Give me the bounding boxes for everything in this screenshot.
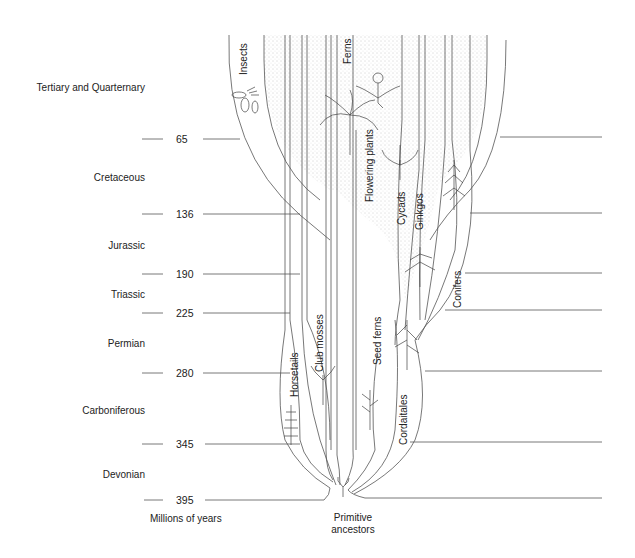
lineage-label-insects: Insects: [238, 43, 249, 75]
lineage-label-conifers: Conifers: [452, 271, 463, 308]
period-label: Triassic: [0, 289, 145, 300]
period-label: Jurassic: [0, 240, 145, 251]
lineage-label-club-mosses: Club mosses: [314, 314, 325, 372]
period-label: Tertiary and Quarternary: [0, 82, 145, 93]
age-label: 190: [176, 268, 206, 280]
root-label: Primitive ancestors: [313, 512, 393, 536]
seed-fern-icon: [395, 320, 419, 370]
period-label: Cretaceous: [0, 172, 145, 183]
age-label: 225: [176, 307, 206, 319]
lineage-label-flowering-plants: Flowering plants: [364, 129, 375, 202]
age-label: 65: [176, 133, 206, 145]
lineage-label-cordaitales: Cordaitales: [398, 394, 409, 445]
axis-title: Millions of years: [150, 513, 222, 524]
period-label: Carboniferous: [0, 405, 145, 416]
lineage-label-ginkgos: Ginkgos: [414, 193, 425, 230]
lineage-label-cycads: Cycads: [396, 192, 407, 225]
age-label: 280: [176, 367, 206, 379]
period-label: Devonian: [0, 469, 145, 480]
seed-fern-frond-icon: [362, 390, 378, 430]
period-label: Permian: [0, 338, 145, 349]
lineage-label-seed-ferns: Seed ferns: [372, 317, 383, 365]
lineage-label-ferns: Ferns: [342, 38, 353, 64]
evolution-diagram: Tertiary and Quarternary Cretaceous Jura…: [0, 0, 635, 558]
age-label: 136: [176, 208, 206, 220]
lineage-label-horsetails: Horsetails: [289, 353, 300, 397]
age-label: 395: [176, 494, 206, 506]
horsetail-icon: [284, 405, 298, 445]
age-label: 345: [176, 438, 206, 450]
